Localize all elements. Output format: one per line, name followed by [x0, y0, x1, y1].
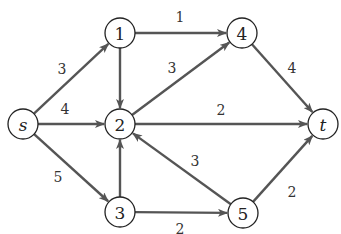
node-3: 3: [105, 197, 135, 227]
node-label: 1: [115, 24, 126, 44]
edge-weight-2-t: 2: [217, 102, 226, 118]
edge-4-t: [252, 44, 312, 112]
node-t: t: [308, 109, 338, 139]
node-s: s: [8, 109, 38, 139]
node-label: t: [320, 115, 327, 135]
edge-s-3: [34, 134, 108, 201]
network-flow-graph: 3451322432 s12345t: [0, 0, 341, 234]
edge-weight-s-2: 4: [61, 101, 70, 117]
node-label: s: [19, 115, 28, 135]
edge-weight-s-1: 3: [58, 61, 67, 77]
edge-weight-1-4: 1: [176, 9, 185, 25]
node-label: 2: [115, 115, 126, 135]
node-1: 1: [105, 18, 135, 48]
edge-3-5: [135, 212, 227, 213]
node-label: 3: [115, 203, 126, 223]
edge-weight-5-t: 2: [288, 184, 297, 200]
edge-5-2: [133, 133, 231, 204]
edge-5-t: [253, 136, 312, 202]
edge-weight-2-4: 3: [168, 60, 177, 76]
edge-weight-s-3: 5: [54, 169, 63, 185]
node-label: 4: [237, 24, 248, 44]
edge-weights-layer: 3451322432: [54, 9, 297, 234]
node-4: 4: [227, 18, 257, 48]
edge-weight-5-2: 3: [191, 153, 200, 169]
edge-s-1: [34, 44, 108, 114]
node-5: 5: [228, 198, 258, 228]
edge-weight-4-t: 4: [288, 60, 297, 76]
edge-2-4: [132, 43, 229, 115]
edge-weight-3-5: 2: [176, 221, 185, 234]
node-label: 5: [238, 204, 249, 224]
node-2: 2: [105, 109, 135, 139]
